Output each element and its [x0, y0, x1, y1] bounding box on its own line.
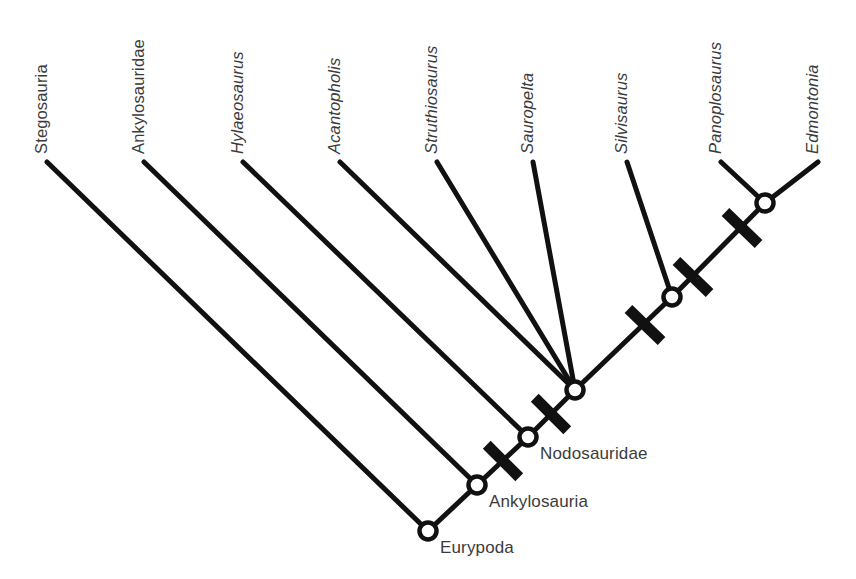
node-crown_node	[757, 195, 774, 212]
node-polytomy	[567, 382, 584, 399]
node-label-nodosauridae: Nodosauridae	[540, 444, 648, 463]
tip-label-hylaeosaurus: Hylaeosaurus	[228, 51, 246, 154]
node-labels-group: EurypodaAnkylosauriaNodosauridae	[440, 444, 648, 557]
node-eurypoda	[420, 523, 437, 540]
node-nodosauridae	[520, 429, 537, 446]
cladogram-canvas: StegosauriaAnkylosauridaeHylaeosaurusAca…	[0, 0, 856, 579]
tip-labels-group: StegosauriaAnkylosauridaeHylaeosaurusAca…	[32, 39, 821, 155]
tip-label-struthiosaurus: Struthiosaurus	[422, 46, 440, 155]
node-ankylosauria	[469, 477, 486, 494]
node-label-eurypoda: Eurypoda	[440, 538, 514, 557]
tip-label-edmontonia: Edmontonia	[803, 64, 821, 154]
tip-label-panoplosaurus: Panoplosaurus	[706, 42, 724, 154]
branch-stegosauria	[47, 162, 428, 531]
branch-lines-group	[47, 162, 818, 531]
tip-label-sauropelta: Sauropelta	[518, 73, 536, 154]
tip-label-acanthopholis: Acantopholis	[325, 58, 343, 155]
branch-silvisaurus	[627, 162, 672, 297]
spine-silvisaurus_node-to-crown_node	[672, 203, 765, 297]
tip-label-ankylosauridae: Ankylosauridae	[129, 39, 147, 154]
node-silvisaurus_node	[664, 289, 681, 306]
cladogram-figure: StegosauriaAnkylosauridaeHylaeosaurusAca…	[0, 0, 856, 579]
branch-ankylosauridae	[144, 162, 477, 485]
tip-label-stegosauria: Stegosauria	[32, 64, 50, 154]
node-label-ankylosauria: Ankylosauria	[489, 492, 589, 511]
tip-label-silvisaurus: Silvisaurus	[612, 73, 630, 154]
